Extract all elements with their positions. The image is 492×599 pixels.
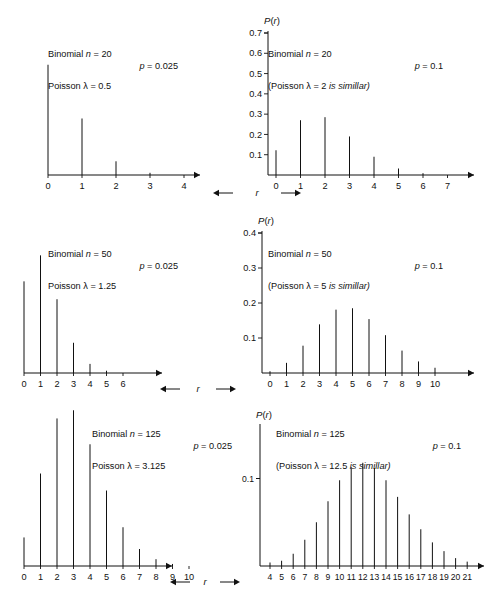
x-tick-label: 6: [120, 379, 125, 389]
annotation-line-1: Binomial n = 50: [48, 248, 178, 260]
x-tick-label: 10: [335, 572, 345, 582]
annotation-middle-left: Binomial n = 50 p = 0.025 Poisson λ = 1.…: [48, 248, 178, 292]
annotation-line-3: Poisson λ = 1.25: [48, 280, 178, 292]
x-tick-label: 14: [381, 572, 391, 582]
annotation-top-right: Binomial n = 20 p = 0.1 (Poisson λ = 2 i…: [268, 48, 443, 92]
x-tick-label: 4: [268, 572, 273, 582]
distribution-comparison-figure: 01234r Binomial n = 20 p = 0.025 Poisson…: [0, 0, 492, 599]
panel-middle-left: 0123456r Binomial n = 50 p = 0.025 Poiss…: [0, 212, 246, 406]
x-tick-label: 1: [79, 181, 84, 191]
x-tick-label: 10: [184, 572, 194, 582]
x-tick-label: 1: [38, 572, 43, 582]
x-tick-label: 18: [428, 572, 438, 582]
y-axis-label: P(r): [256, 409, 272, 420]
y-tick-label: 0.3: [243, 263, 256, 273]
x-tick-label: 8: [399, 379, 404, 389]
x-tick-label: 2: [300, 379, 305, 389]
y-tick-label: 0.4: [249, 89, 262, 99]
x-tick-label: 17: [416, 572, 426, 582]
x-tick-label: 9: [326, 572, 331, 582]
annotation-line-1: Binomial n = 50: [268, 248, 443, 260]
y-tick-label: 0.6: [249, 48, 262, 58]
annotation-line-3: (Poisson λ = 5 is simillar): [268, 280, 443, 292]
x-axis-variable-text: r: [203, 576, 207, 587]
x-tick-label: 4: [333, 379, 338, 389]
x-tick-label: 4: [371, 181, 376, 191]
x-tick-label: 20: [451, 572, 461, 582]
x-tick-label: 6: [366, 379, 371, 389]
annotation-middle-right: Binomial n = 50 p = 0.1 (Poisson λ = 5 i…: [268, 248, 443, 292]
x-tick-label: 1: [284, 379, 289, 389]
x-tick-label: 2: [113, 181, 118, 191]
x-tick-label: 2: [54, 572, 59, 582]
x-tick-label: 12: [358, 572, 368, 582]
y-axis-label: P(r): [264, 15, 280, 26]
x-axis-arrowhead: [468, 172, 474, 178]
x-tick-label: 7: [137, 572, 142, 582]
x-tick-label: 4: [87, 572, 92, 582]
x-tick-label: 3: [71, 572, 76, 582]
x-tick-label: 21: [462, 572, 472, 582]
x-tick-label: 0: [267, 379, 272, 389]
panel-bottom-right: 4567891011121314151617181920210.1P(r) Bi…: [246, 406, 492, 599]
x-tick-label: 5: [104, 379, 109, 389]
annotation-line-2: p = 0.025: [92, 440, 232, 452]
x-tick-label: 11: [347, 572, 356, 582]
x-tick-label: 1: [298, 181, 303, 191]
x-tick-label: 0: [273, 181, 278, 191]
x-tick-label: 19: [439, 572, 449, 582]
panel-top-right: 012345670.10.20.30.40.50.60.7P(r) Binomi…: [246, 12, 492, 212]
panel-bottom-left: 012345678910r Binomial n = 125 p = 0.025…: [0, 406, 246, 599]
y-tick-label: 0.5: [249, 69, 262, 79]
x-tick-label: 4: [87, 379, 92, 389]
x-tick-label: 5: [279, 572, 284, 582]
annotation-line-1: Binomial n = 20: [268, 48, 443, 60]
x-tick-label: 3: [317, 379, 322, 389]
panel-middle-right: 0123456789100.10.20.30.4P(r) Binomial n …: [246, 212, 492, 406]
y-tick-label: 0.1: [243, 333, 256, 343]
annotation-line-3: Poisson λ = 3.125: [92, 460, 232, 472]
x-tick-label: 6: [420, 181, 425, 191]
x-axis-arrowhead: [194, 172, 200, 178]
annotation-line-3: (Poisson λ = 12.5 is simillar): [276, 460, 461, 472]
x-tick-label: 6: [291, 572, 296, 582]
x-tick-label: 7: [302, 572, 307, 582]
x-axis-variable-text: r: [196, 383, 200, 394]
x-tick-label: 16: [404, 572, 414, 582]
x-axis-arrowhead: [478, 563, 484, 569]
plot-middle-left: 0123456r: [0, 212, 246, 406]
x-axis-arrowhead: [468, 370, 474, 376]
x-tick-label: 1: [38, 379, 43, 389]
x-tick-label: 3: [347, 181, 352, 191]
annotation-line-2: p = 0.1: [268, 260, 443, 272]
x-tick-label: 2: [54, 379, 59, 389]
y-tick-label: 0.4: [243, 228, 256, 238]
x-tick-label: 13: [370, 572, 380, 582]
annotation-line-1: Binomial n = 125: [92, 428, 232, 440]
x-tick-label: 10: [430, 379, 440, 389]
annotation-line-3: Poisson λ = 0.5: [48, 80, 178, 92]
x-tick-label: 7: [445, 181, 450, 191]
plot-middle-right: 0123456789100.10.20.30.4P(r): [246, 212, 492, 406]
y-tick-label: 0.1: [242, 474, 254, 484]
x-tick-label: 0: [21, 379, 26, 389]
x-tick-label: 3: [71, 379, 76, 389]
x-tick-label: 2: [322, 181, 327, 191]
annotation-bottom-left: Binomial n = 125 p = 0.025 Poisson λ = 3…: [92, 428, 232, 472]
x-tick-label: 0: [21, 572, 26, 582]
x-tick-label: 15: [393, 572, 403, 582]
x-tick-label: 0: [45, 181, 50, 191]
annotation-line-2: p = 0.025: [48, 60, 178, 72]
annotation-top-left: Binomial n = 20 p = 0.025 Poisson λ = 0.…: [48, 48, 178, 92]
x-tick-label: 9: [416, 379, 421, 389]
annotation-line-2: p = 0.025: [48, 260, 178, 272]
plot-top-left: 01234r: [0, 12, 246, 212]
x-tick-label: 4: [181, 181, 186, 191]
plot-top-right: 012345670.10.20.30.40.50.60.7P(r): [246, 12, 492, 212]
annotation-line-2: p = 0.1: [276, 440, 461, 452]
x-axis-variable-label: r: [170, 576, 240, 587]
x-axis-variable-label: r: [160, 383, 236, 394]
x-axis-arrowhead: [166, 563, 172, 569]
y-tick-label: 0.7: [249, 28, 262, 38]
y-tick-label: 0.2: [243, 298, 256, 308]
